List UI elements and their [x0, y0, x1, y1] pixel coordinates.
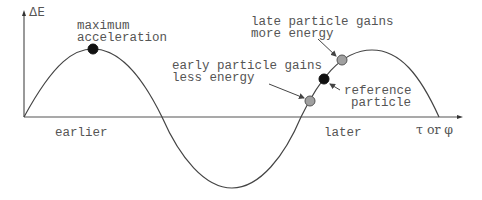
late-particle-dot — [337, 55, 347, 65]
reference-particle-dot — [319, 74, 329, 84]
x-axis-label: τ or φ — [416, 124, 453, 136]
early-particle-label-line2: less energy — [172, 72, 255, 84]
maximum-acceleration-dot — [88, 44, 98, 54]
early-particle-dot — [305, 96, 315, 106]
x-axis-arrow-icon — [457, 115, 463, 119]
max-accel-label-line2: acceleration — [77, 32, 167, 44]
y-axis-arrow-icon — [22, 10, 26, 16]
reference-particle-label-line2: particle — [351, 97, 411, 109]
late-particle-arrow — [318, 39, 336, 56]
y-axis-label: ΔE — [29, 6, 45, 18]
early-particle-arrow — [269, 84, 304, 98]
diagram-canvas: ΔE maximum acceleration late particle ga… — [0, 0, 482, 200]
earlier-label: earlier — [55, 127, 108, 139]
later-label: later — [324, 127, 362, 139]
reference-particle-arrow — [330, 84, 340, 90]
late-particle-label-line2: more energy — [251, 28, 334, 40]
